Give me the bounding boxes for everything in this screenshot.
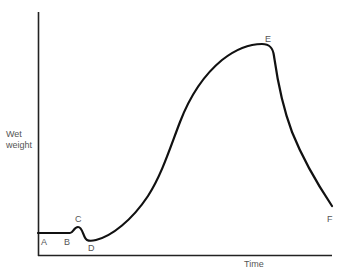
point-label-b: B [64,237,70,247]
y-axis-label-line2: weight [6,140,32,151]
point-label-a: A [41,237,47,247]
y-axis-label-line1: Wet [6,129,32,140]
point-label-c: C [75,214,82,224]
point-label-e: E [265,34,271,44]
wet-weight-vs-time-diagram: Wet weight Time A B C D E F [0,0,340,278]
x-axis-label: Time [244,259,264,269]
point-label-f: F [327,214,333,224]
point-label-d: D [88,243,95,253]
y-axis-label: Wet weight [6,129,32,151]
diagram-canvas [0,0,340,278]
growth-curve [38,44,332,241]
